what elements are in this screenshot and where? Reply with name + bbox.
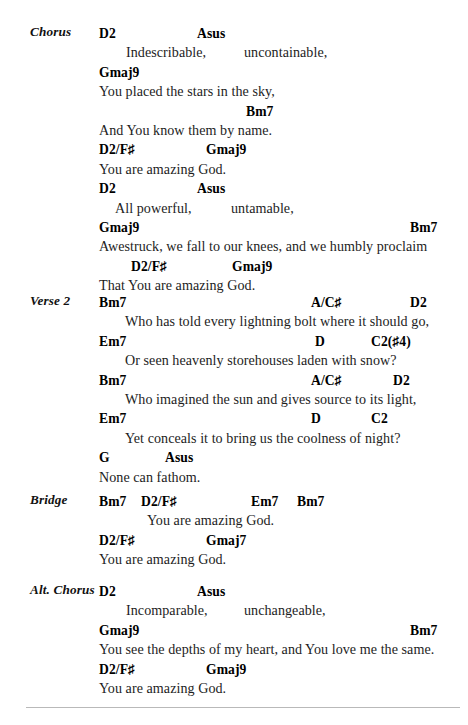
lyric-text: You are amazing God. [99,550,226,569]
lyric-text: None can fathom. [99,468,200,487]
lyric-line: Awestruck, we fall to our knees, and we … [99,237,468,256]
chord-line: Gmaj9Bm7 [99,218,468,237]
chord-symbol: Gmaj9 [99,218,140,237]
section-label: Chorus [30,24,71,40]
lyric-line: Yet conceals it to bring us the coolness… [99,429,468,448]
lyric-text: All powerful, [115,199,192,218]
lyric-text: Incomparable, [126,601,208,620]
chord-symbol: Bm7 [99,293,127,312]
chord-symbol: Gmaj9 [206,140,247,159]
lyric-text: Awestruck, we fall to our knees, and we … [99,237,427,256]
chord-symbol: D2/F♯ [99,660,135,679]
section-chorus: ChorusD2AsusIndescribable,uncontainable,… [0,24,468,295]
chord-symbol: Em7 [99,332,127,351]
chord-symbol: Asus [197,24,225,43]
chord-symbol: Bm7 [99,371,127,390]
lyric-line: None can fathom. [99,468,468,487]
section-lines: Bm7D2/F♯Em7Bm7You are amazing God.D2/F♯G… [99,492,468,570]
chord-symbol: Gmaj9 [206,660,247,679]
lyric-line: Who has told every lightning bolt where … [99,312,468,331]
chord-line: Gmaj9 [99,63,468,82]
chord-symbol: Em7 [99,409,127,428]
chord-symbol: Bm7 [246,102,274,121]
chord-symbol: Asus [197,582,225,601]
lyric-text: You placed the stars in the sky, [99,82,275,101]
chord-line: D2/F♯Gmaj7 [99,531,468,550]
chord-symbol: D [315,332,325,351]
section-label: Bridge [30,492,68,508]
section-label: Alt. Chorus [30,582,95,598]
lyric-line: You are amazing God. [99,550,468,569]
lyric-line: You see the depths of my heart, and You … [99,640,468,659]
chord-symbol: Gmaj9 [232,257,273,276]
chord-symbol: Bm7 [99,492,127,511]
chord-symbol: Asus [197,179,225,198]
lyric-line: Incomparable,unchangeable, [99,601,468,620]
lyric-text: Yet conceals it to bring us the coolness… [125,429,400,448]
chord-symbol: Gmaj9 [99,621,140,640]
lyric-line: You are amazing God. [99,679,468,698]
chord-line: GAsus [99,448,468,467]
chord-symbol: C2 [371,409,388,428]
lyric-line: And You know them by name. [99,121,468,140]
chord-line: Bm7 [99,102,468,121]
section-verse-2: Verse 2Bm7A/C♯D2Who has told every light… [0,293,468,487]
chord-symbol: Gmaj9 [99,63,140,82]
lyric-text: unchangeable, [244,601,326,620]
chord-line: D2Asus [99,179,468,198]
lyric-line: You are amazing God. [99,160,468,179]
chord-symbol: Gmaj7 [206,531,247,550]
chord-symbol: Bm7 [410,621,438,640]
lyric-text: Or seen heavenly storehouses laden with … [125,351,397,370]
chord-symbol: D2 [99,179,116,198]
chord-symbol: D2/F♯ [99,531,135,550]
lyric-text: You are amazing God. [147,511,274,530]
lyric-text: You are amazing God. [99,679,226,698]
lyric-text: Indescribable, [126,43,206,62]
lyric-text: You are amazing God. [99,160,226,179]
chord-symbol: G [99,448,110,467]
chord-line: Bm7A/C♯D2 [99,293,468,312]
section-bridge: BridgeBm7D2/F♯Em7Bm7You are amazing God.… [0,492,468,570]
chord-symbol: D2 [99,582,116,601]
chord-symbol: Bm7 [410,218,438,237]
chord-symbol: Asus [165,448,193,467]
lyric-line: You placed the stars in the sky, [99,82,468,101]
chord-symbol: D [311,409,321,428]
chord-line: Em7DC2(♯4) [99,332,468,351]
chord-symbol: D2 [99,24,116,43]
chord-line: D2Asus [99,24,468,43]
lyric-text: uncontainable, [244,43,327,62]
chord-symbol: D2/F♯ [131,257,167,276]
chord-line: Bm7A/C♯D2 [99,371,468,390]
chord-symbol: A/C♯ [311,371,342,390]
lyric-text: You see the depths of my heart, and You … [99,640,434,659]
lyric-line: Indescribable,uncontainable, [99,43,468,62]
lyric-line: Or seen heavenly storehouses laden with … [99,351,468,370]
section-label: Verse 2 [30,293,70,309]
chord-symbol: C2(♯4) [371,332,411,351]
chord-line: Gmaj9Bm7 [99,621,468,640]
chord-line: D2/F♯Gmaj9 [99,660,468,679]
chord-symbol: D2/F♯ [99,140,135,159]
lyric-line: Who imagined the sun and gives source to… [99,390,468,409]
lyric-line: You are amazing God. [99,511,468,530]
section-alt-chorus: Alt. ChorusD2AsusIncomparable,unchangeab… [0,582,468,698]
chord-line: D2/F♯Gmaj9 [99,257,468,276]
chord-symbol: Em7 [251,492,279,511]
page-footer-divider [26,707,460,708]
chord-symbol: D2 [410,293,427,312]
chord-symbol: Bm7 [297,492,325,511]
lyric-text: And You know them by name. [99,121,272,140]
chord-line: Em7DC2 [99,409,468,428]
section-lines: D2AsusIncomparable,unchangeable,Gmaj9Bm7… [99,582,468,698]
chord-symbol: D2/F♯ [141,492,177,511]
lyric-line: All powerful,untamable, [99,199,468,218]
chord-chart-page: ChorusD2AsusIndescribable,uncontainable,… [0,0,468,725]
chord-line: D2Asus [99,582,468,601]
lyric-text: Who imagined the sun and gives source to… [125,390,416,409]
section-lines: Bm7A/C♯D2Who has told every lightning bo… [99,293,468,487]
chord-symbol: D2 [393,371,410,390]
chord-line: D2/F♯Gmaj9 [99,140,468,159]
section-lines: D2AsusIndescribable,uncontainable,Gmaj9Y… [99,24,468,295]
